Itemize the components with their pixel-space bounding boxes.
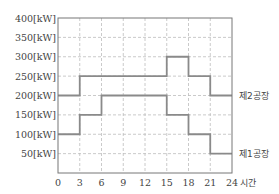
x-tick-label: 15 xyxy=(161,177,173,188)
x-tick-label: 0 xyxy=(55,177,61,188)
y-tick-label: 250[kW] xyxy=(15,71,56,82)
y-tick-label: 150[kW] xyxy=(15,109,56,120)
x-axis-label: 시간 xyxy=(240,178,256,188)
y-tick-label: 400[kW] xyxy=(15,13,56,24)
series-label-2: 제2공장 xyxy=(239,91,269,101)
x-tick-label: 6 xyxy=(98,177,104,188)
x-axis-ticks: 03691215182124시간 xyxy=(55,177,256,188)
series-labels: 제1공장제2공장 xyxy=(239,91,269,159)
step-chart: 50[kW]100[kW]150[kW]200[kW]250[kW]300[kW… xyxy=(0,0,279,194)
y-tick-label: 50[kW] xyxy=(21,148,56,159)
y-axis-ticks: 50[kW]100[kW]150[kW]200[kW]250[kW]300[kW… xyxy=(15,13,56,160)
x-tick-label: 9 xyxy=(120,177,126,188)
series-label-1: 제1공장 xyxy=(239,149,269,159)
x-tick-label: 18 xyxy=(182,177,194,188)
x-tick-label: 21 xyxy=(204,177,216,188)
y-tick-label: 100[kW] xyxy=(15,129,56,140)
x-tick-label: 24 xyxy=(226,177,238,188)
y-tick-label: 350[kW] xyxy=(15,32,56,43)
y-tick-label: 200[kW] xyxy=(15,90,56,101)
x-tick-label: 12 xyxy=(139,177,151,188)
x-tick-label: 3 xyxy=(77,177,83,188)
y-tick-label: 300[kW] xyxy=(15,51,56,62)
